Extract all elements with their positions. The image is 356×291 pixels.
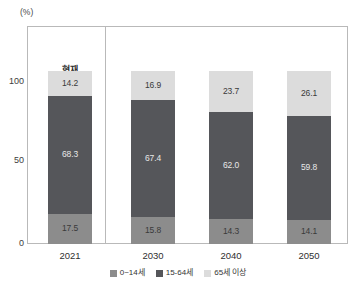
bars-layer: 14.2 68.3 17.5 16.9 67.4 15.8 23.7 62.0 … (0, 0, 356, 291)
legend-item-elderly[interactable]: 65세 이상 (204, 269, 246, 277)
bar-group-2021[interactable]: 14.2 68.3 17.5 (48, 71, 92, 244)
segment-working-age: 67.4 (131, 100, 175, 217)
legend-item-working-age[interactable]: 15-64세 (156, 269, 193, 277)
segment-young: 15.8 (131, 217, 175, 244)
bar-group-2050[interactable]: 26.1 59.8 14.1 (287, 71, 331, 244)
legend-swatch-elderly (204, 270, 211, 277)
segment-working-age: 59.8 (287, 116, 331, 219)
legend-swatch-young (110, 270, 117, 277)
x-axis-label-2040: 2040 (201, 250, 261, 261)
bar-group-2030[interactable]: 16.9 67.4 15.8 (131, 71, 175, 244)
legend-item-young[interactable]: 0~14세 (110, 269, 145, 277)
x-axis-label-2050: 2050 (279, 250, 339, 261)
chart-legend: 0~14세 15-64세 65세 이상 (0, 269, 356, 277)
segment-elderly: 23.7 (209, 71, 253, 112)
legend-label-young: 0~14세 (120, 269, 145, 277)
x-axis-label-2021: 2021 (40, 250, 100, 261)
segment-young: 17.5 (48, 214, 92, 244)
segment-young: 14.3 (209, 219, 253, 244)
segment-elderly: 26.1 (287, 71, 331, 116)
segment-elderly: 16.9 (131, 71, 175, 100)
segment-elderly: 14.2 (48, 71, 92, 96)
segment-young: 14.1 (287, 220, 331, 244)
legend-label-working-age: 15-64세 (166, 269, 193, 277)
segment-working-age: 62.0 (209, 112, 253, 219)
segment-working-age: 68.3 (48, 96, 92, 214)
legend-swatch-working-age (156, 270, 163, 277)
bar-group-2040[interactable]: 23.7 62.0 14.3 (209, 71, 253, 244)
stacked-bar-chart: (%) 100 50 0 현재 14.2 68.3 17.5 16.9 67.4… (0, 0, 356, 291)
x-axis-label-2030: 2030 (123, 250, 183, 261)
legend-label-elderly: 65세 이상 (214, 269, 246, 277)
